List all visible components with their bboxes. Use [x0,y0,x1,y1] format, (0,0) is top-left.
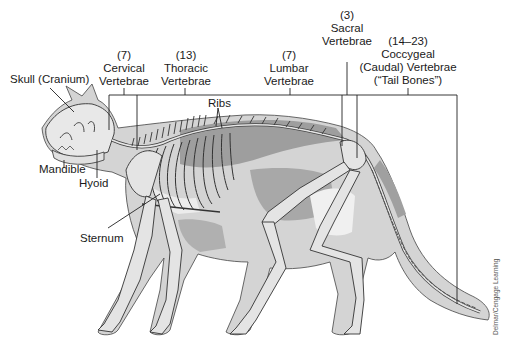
label-skull: Skull (Cranium) [10,73,89,86]
label-thoracic-vertebrae: (13) Thoracic Vertebrae [158,49,214,88]
cervical-count: (7) [98,49,150,62]
credit-line: Delmar/Cengage Learning [492,259,499,335]
label-hyoid: Hyoid [79,177,108,190]
thoracic-count: (13) [158,49,214,62]
coccygeal-count: (14–23) [358,35,458,48]
coccygeal-line2: (Caudal) Vertebrae [358,61,458,74]
label-mandible: Mandible [39,163,86,176]
mandible-text: Mandible [39,163,86,176]
label-sternum: Sternum [80,232,123,245]
cervical-line2: Vertebrae [98,75,150,88]
thoracic-line1: Thoracic [158,62,214,75]
label-cervical-vertebrae: (7) Cervical Vertebrae [98,49,150,88]
thoracic-line2: Vertebrae [158,75,214,88]
label-lumbar-vertebrae: (7) Lumbar Vertebrae [260,49,318,88]
label-coccygeal-vertebrae: (14–23) Coccygeal (Caudal) Vertebrae (“T… [358,35,458,87]
lumbar-line2: Vertebrae [260,75,318,88]
coccygeal-line1: Coccygeal [358,48,458,61]
sternum-text: Sternum [80,232,123,245]
label-skull-text: Skull (Cranium) [10,73,89,86]
cervical-line1: Cervical [98,62,150,75]
coccygeal-line3: (“Tail Bones”) [358,74,458,87]
lumbar-line1: Lumbar [260,62,318,75]
ribs-text: Ribs [208,97,231,110]
sacral-line1: Sacral [318,22,376,35]
hyoid-text: Hyoid [79,177,108,190]
label-ribs: Ribs [208,97,231,110]
sacral-count: (3) [318,9,376,22]
lumbar-count: (7) [260,49,318,62]
